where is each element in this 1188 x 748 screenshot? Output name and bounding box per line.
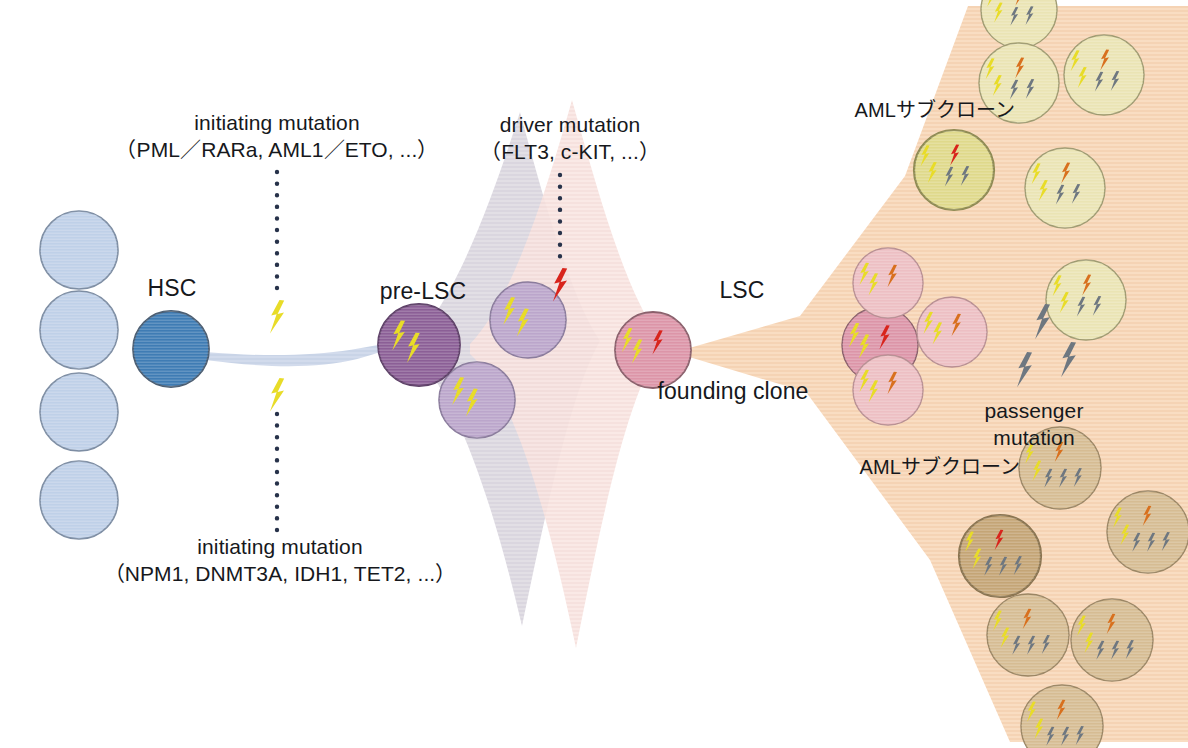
initiating-top-line1: initiating mutation xyxy=(115,110,438,137)
progenitor-cell-3 xyxy=(40,373,118,451)
founding-descendant-cell-3 xyxy=(917,297,987,367)
hsc-cell xyxy=(133,311,209,387)
founding-descendant-cell-2 xyxy=(853,248,923,318)
hsc-label: HSC xyxy=(148,274,197,303)
passenger-line2: mutation xyxy=(985,425,1084,452)
aml-subclone-top-cell-2 xyxy=(981,0,1057,48)
initiating-bottom-bolt-icon xyxy=(270,378,284,412)
driver-line2: （FLT3, c-KIT, ...） xyxy=(480,139,660,166)
aml-subclone-top-cell-6 xyxy=(1046,260,1126,340)
founding-clone-label: founding clone xyxy=(657,377,808,406)
aml-subclone-top-cell-4 xyxy=(1064,35,1144,115)
progenitor-cell-1 xyxy=(40,211,118,289)
aml-subclone-bottom-cell-5 xyxy=(1071,599,1153,681)
initiating-mutation-top-label: initiating mutation （PML／RARa, AML1／ETO,… xyxy=(115,110,438,164)
aml-subclone-top-label: AMLサブクローン xyxy=(854,98,1015,124)
diagram-canvas: initiating mutation （PML／RARa, AML1／ETO,… xyxy=(0,0,1188,748)
aml-subclone-bottom-label: AMLサブクローン xyxy=(859,455,1020,481)
driver-mutation-label: driver mutation （FLT3, c-KIT, ...） xyxy=(480,112,660,166)
passenger-mutation-label: passenger mutation xyxy=(985,398,1084,452)
lsc-label: LSC xyxy=(719,276,764,305)
progenitor-cell-4 xyxy=(40,461,118,539)
aml-subclone-top-cell-5 xyxy=(1025,148,1105,228)
aml-subclone-bottom-cell-4 xyxy=(987,594,1069,676)
aml-subclone-bottom-cell-1 xyxy=(959,515,1041,597)
aml-subclone-bottom-cell-6 xyxy=(1021,685,1103,748)
aml-subclone-bottom-cell-3 xyxy=(1107,491,1188,573)
initiating-top-bolt-icon xyxy=(270,300,284,334)
aml-subclone-top-cell-1 xyxy=(914,130,994,210)
pre-lsc-daughter-cell-2 xyxy=(439,362,515,438)
initiating-bottom-line1: initiating mutation xyxy=(104,534,457,561)
pre-lsc-daughter-cell-1 xyxy=(490,282,566,358)
initiating-mutation-bottom-label: initiating mutation （NPM1, DNMT3A, IDH1,… xyxy=(104,534,457,588)
pre-lsc-cell xyxy=(378,304,460,386)
driver-line1: driver mutation xyxy=(480,112,660,139)
initiating-top-line2: （PML／RARa, AML1／ETO, ...） xyxy=(115,137,438,164)
initiating-bottom-line2: （NPM1, DNMT3A, IDH1, TET2, ...） xyxy=(104,561,457,588)
founding-descendant-cell-4 xyxy=(853,355,923,425)
passenger-line1: passenger xyxy=(985,398,1084,425)
driver-mutation-bolt-icon xyxy=(553,268,567,302)
passenger-mutation-bolt-icon-3 xyxy=(1061,342,1076,377)
progenitor-cell-2 xyxy=(40,291,118,369)
passenger-mutation-bolt-icon-2 xyxy=(1017,352,1032,387)
pre-lsc-label: pre-LSC xyxy=(380,277,466,306)
